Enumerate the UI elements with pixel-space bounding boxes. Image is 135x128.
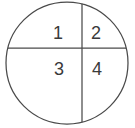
circle-diagram: 1 2 3 4 — [0, 0, 135, 128]
region-label-3: 3 — [54, 59, 64, 79]
circle-outline-icon — [6, 2, 128, 124]
figure-container: 1 2 3 4 — [0, 0, 135, 128]
region-label-2: 2 — [91, 23, 101, 43]
region-label-4: 4 — [92, 59, 102, 79]
region-label-1: 1 — [53, 23, 63, 43]
